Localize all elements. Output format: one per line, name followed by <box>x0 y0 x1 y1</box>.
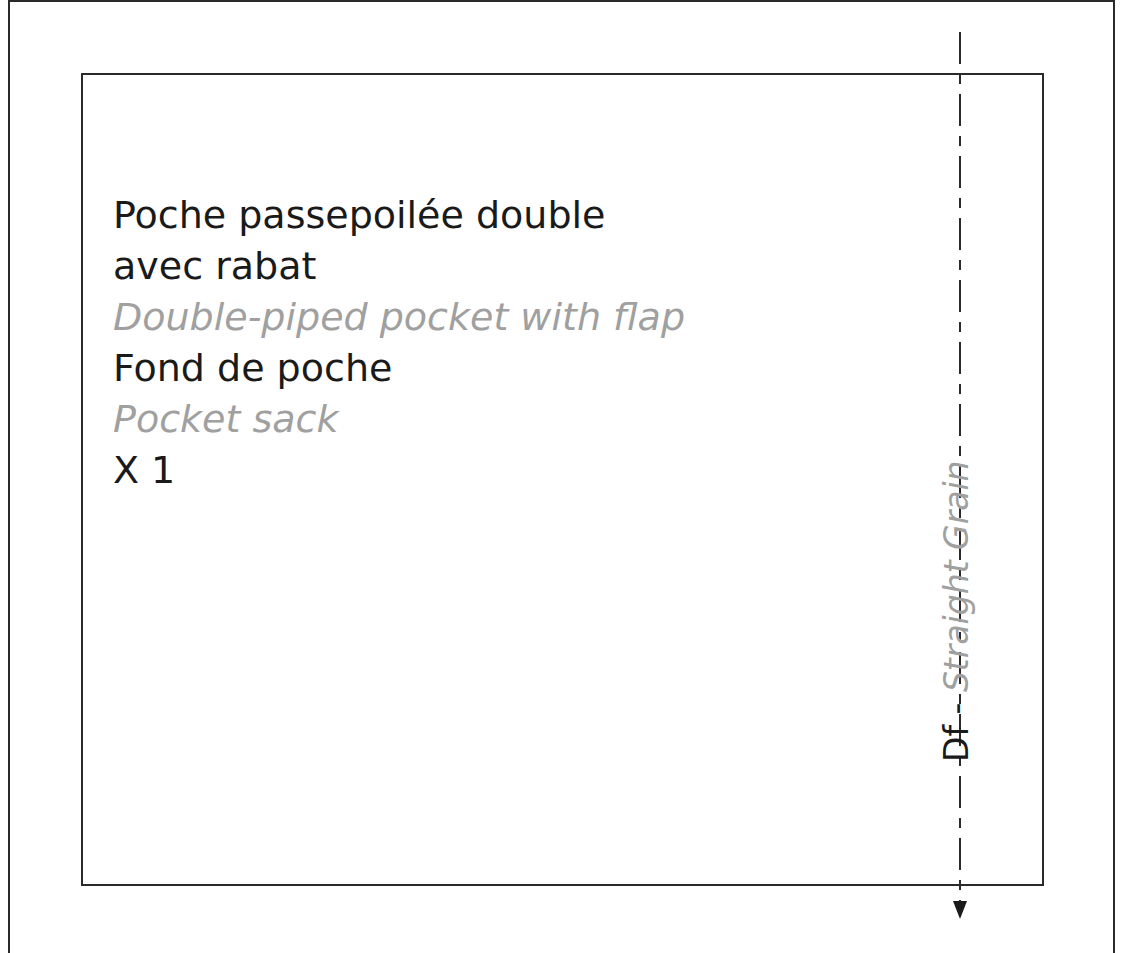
grainline-code: Df <box>937 725 976 762</box>
grainline-separator: - <box>937 692 976 725</box>
grainline-label: Df - Straight Grain <box>937 460 977 762</box>
grainline-text: Straight Grain <box>937 460 976 692</box>
